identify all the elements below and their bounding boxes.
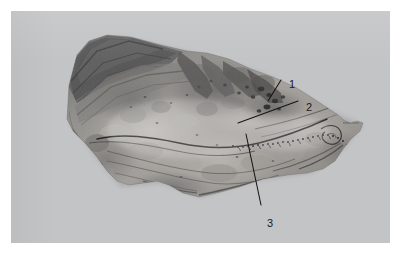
figure-root: 1 2 3	[0, 0, 400, 254]
specimen-image	[11, 11, 390, 243]
callout-label-1: 1	[289, 79, 295, 90]
callout-label-3: 3	[267, 218, 273, 229]
callout-label-2: 2	[306, 102, 312, 113]
specimen-photograph-plate: 1 2 3	[11, 11, 390, 243]
